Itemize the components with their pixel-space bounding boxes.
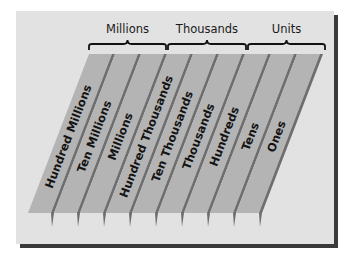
place-value-diagram: Hundred MillionsTen MillionsMillionsHund…	[0, 0, 354, 260]
brace-thousands: Thousands	[168, 22, 246, 50]
place-strips: Hundred MillionsTen MillionsMillionsHund…	[28, 54, 323, 227]
group-braces: MillionsThousandsUnits	[89, 22, 325, 50]
group-label: Thousands	[175, 22, 238, 36]
brace-units: Units	[248, 22, 325, 50]
brace-millions: Millions	[89, 22, 166, 50]
group-label: Units	[272, 22, 301, 36]
group-label: Millions	[106, 22, 149, 36]
